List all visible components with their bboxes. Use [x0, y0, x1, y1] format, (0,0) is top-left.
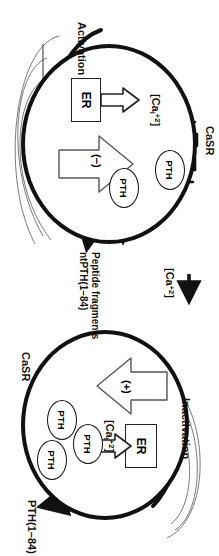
- intracellular-calcium-inactivation: [Cai+2]: [102, 420, 115, 452]
- extracellular-calcium-label: [Ca+2]: [163, 268, 175, 298]
- er-label-inactivation: ER: [134, 438, 148, 455]
- pth-vesicle: PTH: [37, 440, 67, 480]
- receptor-label-activation: CaSR: [203, 126, 215, 155]
- pth-vesicle: PTH: [47, 400, 77, 440]
- pth-vesicle: PTH: [109, 168, 139, 208]
- peptide-products-label: Peptide fragments ntPTH(1–84): [78, 252, 101, 339]
- pth-vesicle: PTH: [73, 424, 103, 464]
- er-label-activation: ER: [79, 92, 93, 109]
- pth-vesicle: PTH: [155, 150, 185, 190]
- figure-rotation-wrapper: ER (−) PTH PTH ER (+) PTH PTH PTH Activa…: [0, 0, 219, 556]
- er-box-activation: ER: [71, 78, 101, 122]
- state-label-activation: Activation: [75, 22, 87, 75]
- parathyroid-cell-activation: [21, 44, 197, 244]
- receptor-label-inactivation: CaSR: [19, 352, 31, 381]
- pathway-diagram: ER (−) PTH PTH ER (+) PTH PTH PTH Activa…: [0, 0, 219, 556]
- modulator-sign-activation: (−): [91, 154, 103, 168]
- state-label-inactivation: Inactivation: [179, 398, 191, 459]
- intracellular-calcium-activation: [Cai+2]: [148, 94, 161, 126]
- modulator-sign-inactivation: (+): [121, 380, 133, 394]
- er-box-inactivation: ER: [125, 424, 157, 468]
- secretion-label-inactivation: PTH(1–84): [25, 500, 37, 554]
